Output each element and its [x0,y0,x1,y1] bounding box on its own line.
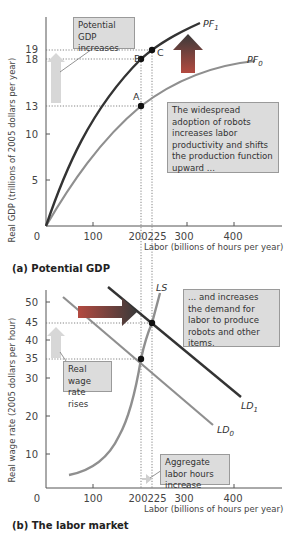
svg-text:PF1: PF1 [203,18,219,32]
svg-text:13: 13 [25,101,38,112]
panel-b-caption: (b) The labor market [12,520,129,531]
pf1-label: PF1 [203,18,219,32]
svg-text:225: 225 [147,493,166,504]
shift-up-arrow-icon [173,34,203,73]
equilibrium-point-0 [138,356,144,362]
svg-text:300: 300 [174,231,193,242]
svg-text:100: 100 [83,231,102,242]
potential-gdp-box: Potential GDP increases [73,17,135,49]
svg-text:0: 0 [34,493,40,504]
svg-text:400: 400 [223,493,242,504]
svg-text:50: 50 [25,297,38,308]
labor-hours-box: Aggregate labor hours increase [160,454,230,485]
gdp-increase-arrow-icon [47,53,65,103]
panel-a-x-label: Labor (billions of hours per year) [144,242,283,252]
svg-text:200: 200 [128,493,147,504]
point-c-label: C [157,47,164,58]
svg-text:10: 10 [25,129,38,140]
svg-text:20: 20 [25,411,38,422]
svg-text:0: 0 [34,231,40,242]
point-a [138,103,144,109]
wage-increase-arrow-icon [47,327,65,358]
svg-text:LD0: LD0 [217,424,235,438]
svg-text:200: 200 [128,231,147,242]
robots-productivity-box: The widespread adoption of robots increa… [167,102,279,173]
panel-a-y-label: Real GDP (trillions of 2005 dollars per … [7,58,17,243]
svg-text:PF0: PF0 [247,54,263,68]
svg-text:19: 19 [25,44,38,55]
panel-a-x-ticks: 0 100 200 225 300 400 [34,222,243,242]
point-c [149,47,155,53]
svg-text:40: 40 [25,335,38,346]
svg-text:400: 400 [223,231,242,242]
ld0-label: LD0 [217,424,235,438]
panel-b-x-label: Labor (billions of hours per year) [144,504,283,514]
svg-text:LS: LS [156,282,167,293]
svg-text:5: 5 [32,175,38,186]
svg-text:LD1: LD1 [241,400,258,414]
ld1-label: LD1 [241,400,258,414]
svg-text:300: 300 [174,493,193,504]
panel-a-caption: (a) Potential GDP [12,263,110,274]
equilibrium-point-1 [149,320,155,326]
point-b-label: B [134,53,141,64]
labor-demand-box: ... and increases the demand for labor t… [183,289,280,347]
pf0-label: PF0 [247,54,263,68]
hours-increase-arrow-icon [142,474,152,484]
svg-text:30: 30 [25,373,38,384]
svg-text:45: 45 [25,317,38,328]
panel-b-x-ticks: 0 100 200 225 300 400 [34,484,243,504]
svg-text:18: 18 [25,54,38,65]
svg-text:225: 225 [147,231,166,242]
svg-text:35: 35 [25,353,38,364]
figure-canvas: 5 10 13 18 19 0 100 200 225 300 400 Labo… [0,0,285,535]
panel-b-y-label: Real wage rate (2005 dollars per hour) [7,318,17,483]
real-wage-box: Real wage rate rises [63,361,112,392]
ls-label: LS [156,282,167,293]
point-a-label: A [133,91,140,102]
svg-text:100: 100 [83,493,102,504]
svg-text:10: 10 [25,449,38,460]
